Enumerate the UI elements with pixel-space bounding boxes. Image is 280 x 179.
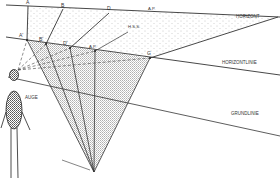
perspective-diagram: A B D A.P. H.S.S. A' B' D' A.P. G HORIZO… (0, 0, 280, 178)
label-g: G (147, 50, 151, 56)
label-ap-mid: A.P. (89, 44, 96, 49)
grundlinie-line (8, 77, 280, 136)
label-ap-top: A.P. (148, 6, 155, 11)
label-b: B (61, 2, 65, 8)
label-d: D (107, 5, 111, 11)
label-horizontlinie: HORIZONTLINIE (222, 60, 257, 65)
observer-figure (1, 70, 30, 179)
label-auge: AUGE (25, 95, 38, 100)
label-grundlinie: GRUNDLINIE (231, 111, 259, 116)
label-horizont: HORIZONT (236, 14, 260, 19)
label-hss: H.S.S. (128, 24, 140, 29)
hatched-pyramid (27, 40, 150, 172)
label-b-prime: B' (39, 36, 43, 42)
label-a-prime: A' (19, 32, 23, 38)
label-d-prime: D' (63, 40, 68, 46)
observer-body (6, 91, 22, 129)
label-a: A (26, 0, 30, 5)
observer-head (10, 70, 19, 81)
